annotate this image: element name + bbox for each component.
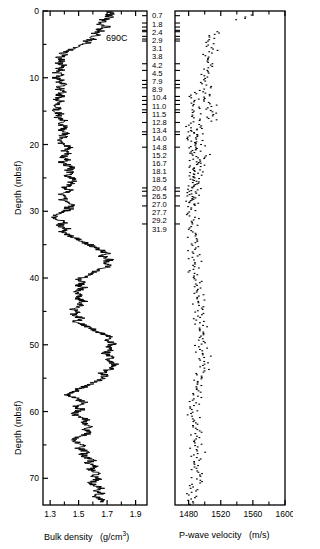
p-wave-sample	[196, 291, 198, 292]
p-wave-sample	[193, 398, 195, 399]
p-wave-sample	[193, 380, 195, 381]
p-wave-sample	[190, 123, 192, 124]
p-wave-sample	[197, 173, 199, 174]
p-wave-sample	[188, 167, 190, 168]
p-wave-sample	[190, 488, 192, 489]
p-wave-sample	[199, 161, 201, 162]
p-wave-sample	[208, 39, 210, 40]
p-wave-sample	[193, 168, 195, 169]
p-wave-sample	[191, 131, 193, 132]
p-wave-sample	[197, 446, 199, 447]
p-wave-sample	[199, 430, 201, 431]
p-wave-sample	[194, 464, 196, 465]
p-wave-sample	[188, 185, 190, 186]
p-wave-sample	[194, 171, 196, 172]
p-wave-sample	[196, 93, 198, 94]
p-wave-sample	[199, 169, 201, 170]
p-wave-sample	[197, 289, 199, 290]
p-wave-sample	[209, 36, 211, 37]
p-wave-sample	[195, 373, 197, 374]
p-wave-sample	[196, 181, 198, 182]
p-wave-sample	[190, 95, 192, 96]
p-wave-sample	[200, 144, 202, 145]
p-wave-sample	[191, 193, 193, 194]
p-wave-sample	[203, 357, 205, 358]
p-wave-sample	[188, 125, 190, 126]
p-wave-sample	[195, 496, 197, 497]
p-wave-sample	[196, 285, 198, 286]
p-wave-sample	[193, 420, 195, 421]
p-wave-sample	[191, 469, 193, 470]
p-wave-sample	[202, 338, 204, 339]
p-wave-sample	[195, 490, 197, 491]
p-wave-sample	[198, 437, 200, 438]
p-wave-sample	[196, 136, 198, 137]
p-wave-sample	[202, 353, 204, 354]
p-wave-sample	[194, 242, 196, 243]
p-wave-sample	[196, 298, 198, 299]
p-wave-sample	[196, 436, 198, 437]
p-wave-sample	[194, 324, 196, 325]
p-wave-sample	[191, 416, 193, 417]
p-wave-sample	[190, 141, 192, 142]
p-wave-sample	[195, 279, 197, 280]
p-wave-sample	[190, 127, 192, 128]
p-wave-sample	[194, 92, 196, 93]
p-wave-sample	[199, 159, 201, 160]
p-wave-sample	[199, 329, 201, 330]
p-wave-axis-title: P-wave velocity (m/s)	[179, 530, 270, 540]
p-wave-sample	[198, 358, 200, 359]
p-wave-sample	[206, 117, 208, 118]
p-wave-sample	[196, 450, 198, 451]
p-wave-sample	[195, 386, 197, 387]
p-wave-sample	[192, 393, 194, 394]
p-wave-sample	[251, 14, 253, 15]
p-wave-sample	[201, 377, 203, 378]
bulk-density-tick-label: 1.5	[73, 509, 85, 519]
p-wave-sample	[204, 342, 206, 343]
p-wave-sample	[190, 230, 192, 231]
p-wave-sample	[203, 75, 205, 76]
p-wave-sample	[200, 397, 202, 398]
p-wave-sample	[207, 40, 209, 41]
p-wave-sample	[193, 219, 195, 220]
p-wave-sample	[192, 253, 194, 254]
p-wave-sample	[198, 346, 200, 347]
p-wave-sample	[196, 410, 198, 411]
p-wave-sample	[190, 413, 192, 414]
p-wave-sample	[191, 222, 193, 223]
p-wave-sample	[193, 394, 195, 395]
p-wave-sample	[216, 105, 218, 106]
p-wave-axis-label: P-wave velocity	[179, 530, 242, 540]
p-wave-sample	[193, 132, 195, 133]
depth-tick-label: 40	[30, 273, 40, 283]
p-wave-sample	[195, 283, 197, 284]
p-wave-sample	[204, 78, 206, 79]
p-wave-sample	[191, 153, 193, 154]
p-wave-sample	[199, 480, 201, 481]
p-wave-sample	[212, 49, 214, 50]
p-wave-sample	[193, 186, 195, 187]
p-wave-sample	[210, 106, 212, 107]
p-wave-sample	[201, 376, 203, 377]
p-wave-sample	[215, 113, 217, 114]
p-wave-sample	[196, 429, 198, 430]
p-wave-sample	[200, 378, 202, 379]
p-wave-sample	[197, 135, 199, 136]
p-wave-sample	[189, 135, 191, 136]
p-wave-sample	[190, 200, 192, 201]
p-wave-sample	[196, 241, 198, 242]
p-wave-sample	[194, 445, 196, 446]
p-wave-sample	[203, 158, 205, 159]
p-wave-sample	[203, 306, 205, 307]
p-wave-plot-frame	[175, 11, 285, 505]
p-wave-sample	[199, 108, 201, 109]
p-wave-sample	[194, 433, 196, 434]
p-wave-sample	[188, 258, 190, 259]
p-wave-sample	[206, 77, 208, 78]
p-wave-sample	[200, 163, 202, 164]
p-wave-sample	[195, 320, 197, 321]
p-wave-sample	[205, 93, 207, 94]
p-wave-sample	[196, 161, 198, 162]
p-wave-sample	[216, 119, 218, 120]
